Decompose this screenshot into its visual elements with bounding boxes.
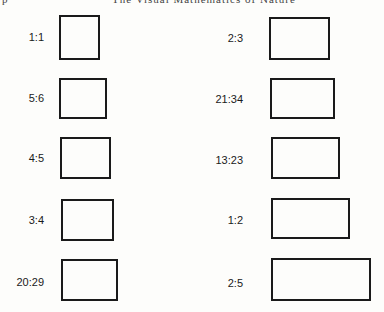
ratio-label-13-23: 13:23 — [183, 154, 243, 166]
clipped-header-text: p The Visual Mathematics of Nature — [0, 0, 384, 5]
ratio-rectangle-4-5 — [60, 137, 111, 179]
ratio-rectangle-2-3 — [269, 17, 330, 60]
ratio-rectangle-1-1 — [59, 15, 100, 60]
ratio-rectangle-2-5 — [271, 258, 371, 301]
ratio-label-2-5: 2:5 — [183, 277, 243, 289]
ratio-rectangle-1-2 — [271, 198, 350, 239]
ratio-rectangle-13-23 — [271, 137, 340, 179]
ratio-label-1-1: 1:1 — [0, 31, 44, 43]
header-left-fragment: p — [2, 0, 9, 5]
ratio-rectangle-20-29 — [61, 259, 118, 301]
ratio-label-4-5: 4:5 — [0, 152, 44, 164]
ratio-label-20-29: 20:29 — [0, 276, 44, 288]
ratio-rectangle-3-4 — [61, 199, 114, 241]
ratio-label-21-34: 21:34 — [183, 93, 243, 105]
ratio-rectangle-5-6 — [59, 78, 107, 119]
ratio-label-2-3: 2:3 — [183, 32, 243, 44]
ratio-label-1-2: 1:2 — [183, 214, 243, 226]
ratio-label-5-6: 5:6 — [0, 92, 44, 104]
ratio-rectangle-21-34 — [270, 78, 335, 119]
header-running-title: The Visual Mathematics of Nature — [112, 0, 296, 5]
ratio-label-3-4: 3:4 — [0, 214, 44, 226]
